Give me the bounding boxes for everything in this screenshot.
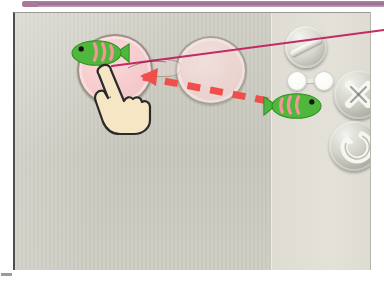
goggles-icon[interactable] [287,70,337,92]
decorative-header-bar [22,1,384,7]
close-button[interactable] [334,70,371,119]
control-strip-divider [271,13,272,270]
petri-dish-left[interactable] [77,34,153,106]
decorative-header-bar-cap [22,1,38,7]
simulation-panel [13,12,371,270]
dish-right-ghost-label [185,57,233,73]
screenshot-root [0,0,384,282]
goggles-lens-right [314,71,334,91]
screw-knob-control[interactable] [285,26,327,68]
reset-button[interactable] [329,121,371,171]
corner-tick-mark [1,273,12,276]
screw-slot-icon [289,37,322,58]
goggles-lens-left [287,71,307,91]
rotate-undo-icon [329,121,371,171]
close-x-icon [334,70,371,119]
